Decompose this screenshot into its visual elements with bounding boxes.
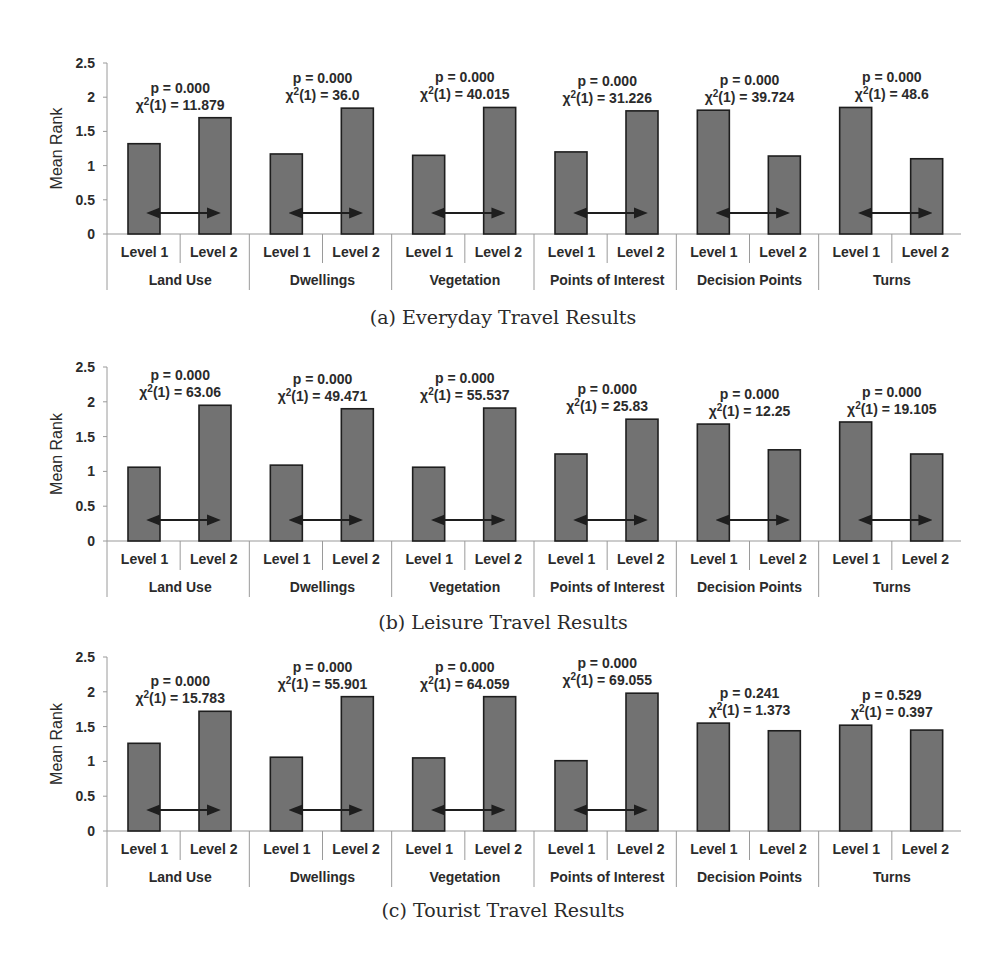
chi-value: (1) = 15.783 <box>149 690 225 706</box>
chi-square-label: χ2(1) = 64.059 <box>420 675 510 692</box>
y-tick-label: 0 <box>87 823 95 839</box>
chi-symbol: χ <box>420 676 428 692</box>
bar-level-1 <box>697 723 729 831</box>
y-tick-label: 2.5 <box>76 649 96 665</box>
figure-tourist-travel: 00.511.522.5Mean Rankp = 0.000χ2(1) = 15… <box>0 0 1006 977</box>
chi-symbol: χ <box>851 704 859 720</box>
bar-level-1 <box>840 725 872 831</box>
level-2-label: Level 2 <box>617 841 665 857</box>
category-label: Vegetation <box>429 869 500 885</box>
category-label: Land Use <box>149 869 212 885</box>
chi-square-label: χ2(1) = 1.373 <box>709 701 791 718</box>
caption-tourist: (c) Tourist Travel Results <box>0 899 1006 921</box>
chi-square-label: χ2(1) = 0.397 <box>851 703 933 720</box>
bar-level-2 <box>199 711 231 831</box>
p-value-label: p = 0.529 <box>862 687 922 703</box>
chi-value: (1) = 55.901 <box>291 676 367 692</box>
level-2-label: Level 2 <box>475 841 523 857</box>
bar-level-1 <box>413 758 445 831</box>
category-label: Dwellings <box>290 869 356 885</box>
bar-level-1 <box>128 743 160 831</box>
level-1-label: Level 1 <box>690 841 738 857</box>
y-tick-label: 1.5 <box>76 719 96 735</box>
p-value-label: p = 0.000 <box>577 655 637 671</box>
bar-level-1 <box>555 761 587 831</box>
chi-value: (1) = 1.373 <box>722 702 790 718</box>
y-axis-label: Mean Rank <box>48 702 65 785</box>
y-tick-label: 0.5 <box>76 788 96 804</box>
chi-value: (1) = 0.397 <box>865 704 933 720</box>
y-tick-label: 1 <box>87 753 95 769</box>
level-1-label: Level 1 <box>121 841 169 857</box>
level-2-label: Level 2 <box>902 841 950 857</box>
chi-symbol: χ <box>278 676 286 692</box>
level-1-label: Level 1 <box>833 841 881 857</box>
level-2-label: Level 2 <box>190 841 238 857</box>
p-value-label: p = 0.000 <box>150 673 210 689</box>
p-value-label: p = 0.241 <box>720 685 780 701</box>
category-label: Decision Points <box>697 869 802 885</box>
bar-chart-tourist: 00.511.522.5Mean Rankp = 0.000χ2(1) = 15… <box>0 0 1006 977</box>
chi-symbol: χ <box>709 702 717 718</box>
bar-level-2 <box>768 731 800 831</box>
chi-square-label: χ2(1) = 15.783 <box>135 689 225 706</box>
chi-square-label: χ2(1) = 69.055 <box>562 671 652 688</box>
bar-level-1 <box>270 757 302 831</box>
p-value-label: p = 0.000 <box>293 659 353 675</box>
chi-value: (1) = 69.055 <box>576 672 652 688</box>
p-value-label: p = 0.000 <box>435 659 495 675</box>
chi-square-label: χ2(1) = 55.901 <box>278 675 368 692</box>
chi-symbol: χ <box>562 672 570 688</box>
chi-value: (1) = 64.059 <box>434 676 510 692</box>
level-1-label: Level 1 <box>263 841 311 857</box>
level-2-label: Level 2 <box>332 841 380 857</box>
level-1-label: Level 1 <box>548 841 596 857</box>
y-tick-label: 2 <box>87 684 95 700</box>
level-2-label: Level 2 <box>759 841 807 857</box>
level-1-label: Level 1 <box>406 841 454 857</box>
chi-symbol: χ <box>135 690 143 706</box>
category-label: Points of Interest <box>550 869 665 885</box>
category-label: Turns <box>873 869 911 885</box>
bar-level-2 <box>911 730 943 831</box>
